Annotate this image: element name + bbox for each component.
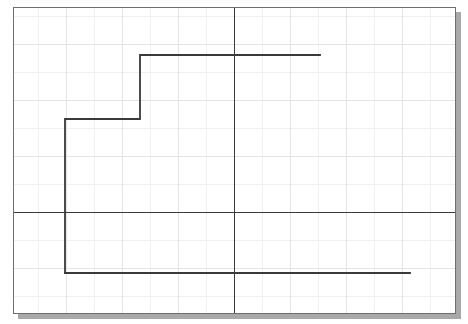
screenshot-stage	[0, 0, 468, 324]
chart-axes	[14, 8, 455, 313]
step-function-chart	[14, 8, 455, 313]
plot-frame	[13, 7, 456, 314]
